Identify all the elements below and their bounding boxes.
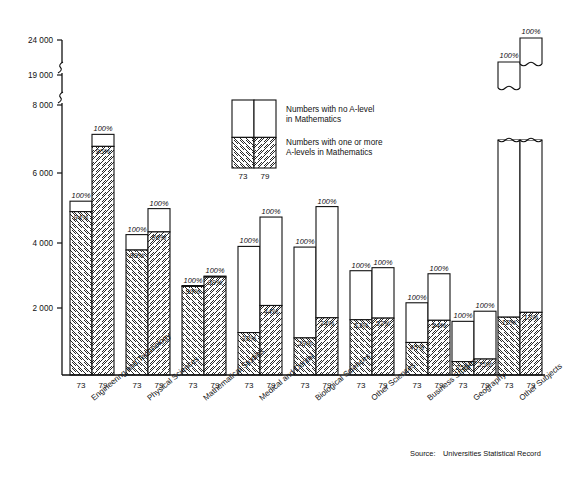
bar-segment-no-alevel[interactable] (350, 271, 372, 320)
legend-swatch-with-alevel (232, 137, 254, 168)
bar-hatched-percent-label: 25% (477, 360, 493, 369)
bar-total-percent-label: 100% (500, 51, 519, 60)
y-axis: 24 00019 0008 0006 0004 0002 000 (28, 36, 63, 375)
legend-entry-with-alevel-line1: Numbers with one or more (286, 138, 383, 147)
bar-total-percent-label: 100% (352, 261, 371, 270)
bar-hatched-percent-label: 12% (502, 318, 517, 327)
y-tick-label: 19 000 (28, 71, 53, 80)
bar-segment-no-alevel[interactable] (294, 247, 316, 338)
bar[interactable]: 100%34% (316, 197, 338, 375)
bar-total-percent-label: 100% (454, 311, 473, 320)
year-label: 73 (357, 381, 366, 390)
legend: 7379Numbers with no A-levelin Mathematic… (232, 100, 383, 181)
bar[interactable]: 100%13% (520, 27, 542, 375)
year-label: 73 (505, 381, 514, 390)
axis-break-mark-upper (58, 62, 63, 73)
bar[interactable]: 100%94% (70, 191, 92, 375)
bar-hatched-percent-label: 89% (130, 251, 145, 260)
y-tick-label: 6 000 (33, 169, 54, 178)
bar-hatched-percent-label: 29% (297, 339, 313, 348)
year-label: 73 (459, 381, 468, 390)
bar-segment-no-alevel[interactable] (260, 217, 282, 305)
bar-hatched-percent-label: 54% (432, 321, 447, 330)
y-tick-label: 8 000 (33, 101, 54, 110)
legend-swatch-no-alevel (232, 100, 254, 137)
bar-hatched-percent-label: 53% (354, 321, 369, 330)
bar-total-percent-label: 100% (318, 197, 337, 206)
year-label: 73 (301, 381, 310, 390)
axis-break-mark-lower (58, 92, 63, 103)
bar-hatched-percent-label: 13% (524, 313, 539, 322)
legend-entry-with-alevel-line2: A-levels in Mathematics (286, 148, 372, 157)
bar-total-percent-label: 100% (374, 258, 393, 267)
bars-layer: 100%94%100%95%100%89%100%86%100%99%100%9… (70, 27, 542, 375)
year-tick-labels: 737973797379737973797379737973797379 (77, 381, 536, 390)
bar[interactable]: 100%12% (498, 51, 520, 375)
bar-segment-with-alevel[interactable] (260, 306, 282, 375)
bar[interactable]: 100%53% (372, 258, 394, 375)
legend-swatch-no-alevel (254, 100, 276, 137)
bar-hatched-percent-label: 95% (96, 147, 111, 156)
bar[interactable]: 100%25% (474, 301, 496, 375)
source-note: Source:Universities Statistical Record (410, 449, 541, 458)
bar-segment-no-alevel[interactable] (474, 311, 496, 359)
y-tick-label: 24 000 (28, 36, 53, 45)
bar-segment-no-alevel[interactable] (452, 321, 474, 361)
bar-total-percent-label: 100% (240, 236, 259, 245)
legend-swatch-with-alevel (254, 137, 276, 168)
bar-top-fragment: 100% (498, 51, 520, 90)
y-tick-label: 2 000 (33, 304, 54, 313)
bar-segment-no-alevel[interactable] (92, 134, 114, 146)
bar-total-percent-label: 100% (128, 225, 147, 234)
bar-hatched-percent-label: 33% (242, 334, 257, 343)
bar-segment-no-alevel[interactable] (238, 246, 260, 332)
bar-segment-no-alevel[interactable] (520, 140, 542, 312)
bar-segment-no-alevel[interactable] (148, 209, 170, 232)
bar-total-percent-label: 100% (94, 124, 113, 133)
bar-total-percent-label: 100% (522, 27, 541, 36)
bar[interactable]: 100%54% (428, 264, 450, 375)
bar-chart: 24 00019 0008 0006 0004 0002 000 100%94%… (0, 0, 578, 480)
legend-year-label: 79 (261, 172, 270, 181)
bar-total-percent-label: 100% (184, 276, 203, 285)
bar-segment-with-alevel[interactable] (92, 146, 114, 375)
year-label: 73 (133, 381, 142, 390)
fragment-outline (498, 62, 520, 88)
bar[interactable]: 100%99% (204, 266, 226, 375)
year-label: 73 (189, 381, 198, 390)
bar-segment-no-alevel[interactable] (428, 274, 450, 321)
chart-canvas: 24 00019 0008 0006 0004 0002 000 100%94%… (0, 0, 578, 480)
legend-entry-no-alevel-line2: in Mathematics (286, 115, 341, 124)
bar-segment-no-alevel[interactable] (372, 268, 394, 318)
bar[interactable]: 100%44% (260, 207, 282, 375)
bar-segment-with-alevel[interactable] (70, 212, 92, 375)
bar[interactable]: 100%29% (294, 237, 316, 375)
source-value: Universities Statistical Record (443, 449, 541, 458)
bar-segment-no-alevel[interactable] (316, 207, 338, 318)
bar-hatched-percent-label: 34% (320, 319, 335, 328)
bar-segment-no-alevel[interactable] (406, 303, 428, 343)
bar-total-percent-label: 100% (296, 237, 315, 246)
y-tick-label: 4 000 (33, 239, 54, 248)
bar-top-fragment: 100% (520, 27, 542, 66)
bar[interactable]: 100%95% (92, 124, 114, 375)
bar-segment-no-alevel[interactable] (498, 140, 520, 317)
bar-total-percent-label: 100% (430, 264, 449, 273)
bar-total-percent-label: 100% (72, 191, 91, 200)
bar-hatched-percent-label: 45% (410, 343, 425, 352)
bar-hatched-percent-label: 53% (376, 319, 391, 328)
bar-segment-no-alevel[interactable] (126, 235, 148, 250)
bar-hatched-percent-label: 44% (264, 307, 279, 316)
bar-segment-no-alevel[interactable] (70, 201, 92, 211)
year-label: 73 (77, 381, 86, 390)
bar-hatched-percent-label: 94% (74, 213, 89, 222)
fragment-outline (520, 38, 542, 64)
bar-total-percent-label: 100% (476, 301, 495, 310)
bar-hatched-percent-label: 99% (186, 287, 201, 296)
legend-entry-no-alevel-line1: Numbers with no A-level (286, 105, 374, 114)
bar-total-percent-label: 100% (408, 293, 427, 302)
legend-year-label: 73 (239, 172, 248, 181)
bar-segment-with-alevel[interactable] (204, 277, 226, 375)
bar-total-percent-label: 100% (206, 266, 225, 275)
bar-total-percent-label: 100% (262, 207, 281, 216)
